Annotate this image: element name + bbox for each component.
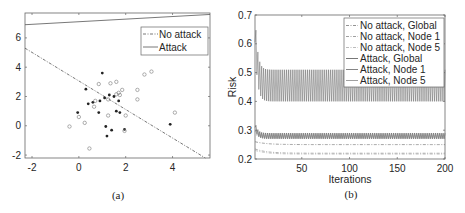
figure: -2024-20246 No attack Attack (a) 5010015… (0, 0, 465, 213)
filled-point (117, 99, 120, 102)
panel-a-caption: (a) (112, 189, 125, 202)
legend-label: Attack, Global (360, 53, 422, 64)
legend-label: Attack, Node 1 (360, 64, 426, 75)
x-tick-label: 50 (296, 163, 308, 174)
legend-label: No attack, Node 1 (360, 31, 440, 42)
x-tick-label: 2 (123, 162, 129, 173)
panel-b-xlabel: Iterations (328, 173, 371, 185)
filled-point (104, 125, 107, 128)
y-tick-label: 0.5 (238, 67, 252, 78)
y-tick-label: -2 (12, 150, 21, 161)
filled-point (99, 99, 102, 102)
filled-point (84, 88, 87, 91)
y-tick-label: 2 (15, 91, 21, 102)
y-tick-label: 0.6 (238, 38, 252, 49)
filled-point (169, 123, 172, 126)
y-tick-label: 4 (15, 62, 21, 73)
filled-point (101, 72, 104, 75)
filled-point (97, 111, 100, 114)
x-tick-label: 4 (170, 162, 176, 173)
x-tick-label: 200 (437, 163, 454, 174)
x-tick-label: 0 (76, 162, 82, 173)
panel-b-caption: (b) (345, 188, 358, 201)
legend-label: No attack, Node 5 (360, 42, 440, 53)
y-tick-label: 0 (15, 120, 21, 131)
filled-point (115, 110, 118, 113)
filled-point (103, 97, 106, 100)
x-tick-label: 150 (389, 163, 406, 174)
y-tick-label: 0.2 (238, 154, 252, 165)
y-tick-label: 0.7 (238, 10, 252, 21)
legend-label-attack: Attack (159, 42, 188, 53)
x-tick-label: -2 (28, 162, 37, 173)
panel-b-ylabel: Risk (226, 76, 238, 97)
filled-point (110, 129, 113, 132)
panel-b-legend: No attack, GlobalNo attack, Node 1No att… (344, 18, 444, 87)
panel-a-scatter-plot: -2024-20246 No attack Attack (a) (12, 13, 210, 202)
panel-b-line-plot: 501001502000.20.30.40.50.60.7 Iterations… (226, 10, 454, 202)
filled-point (106, 135, 109, 138)
filled-point (76, 111, 79, 114)
y-tick-label: 6 (15, 32, 21, 43)
panel-a-legend: No attack Attack (141, 27, 208, 55)
legend-label: No attack, Global (360, 20, 437, 31)
legend-label-no-attack: No attack (159, 29, 202, 40)
filled-point (118, 111, 121, 114)
y-tick-label: 0.4 (238, 96, 252, 107)
legend-label: Attack, Node 5 (360, 75, 426, 86)
filled-point (108, 94, 111, 97)
filled-point (87, 102, 90, 105)
y-tick-label: 0.3 (238, 125, 252, 136)
